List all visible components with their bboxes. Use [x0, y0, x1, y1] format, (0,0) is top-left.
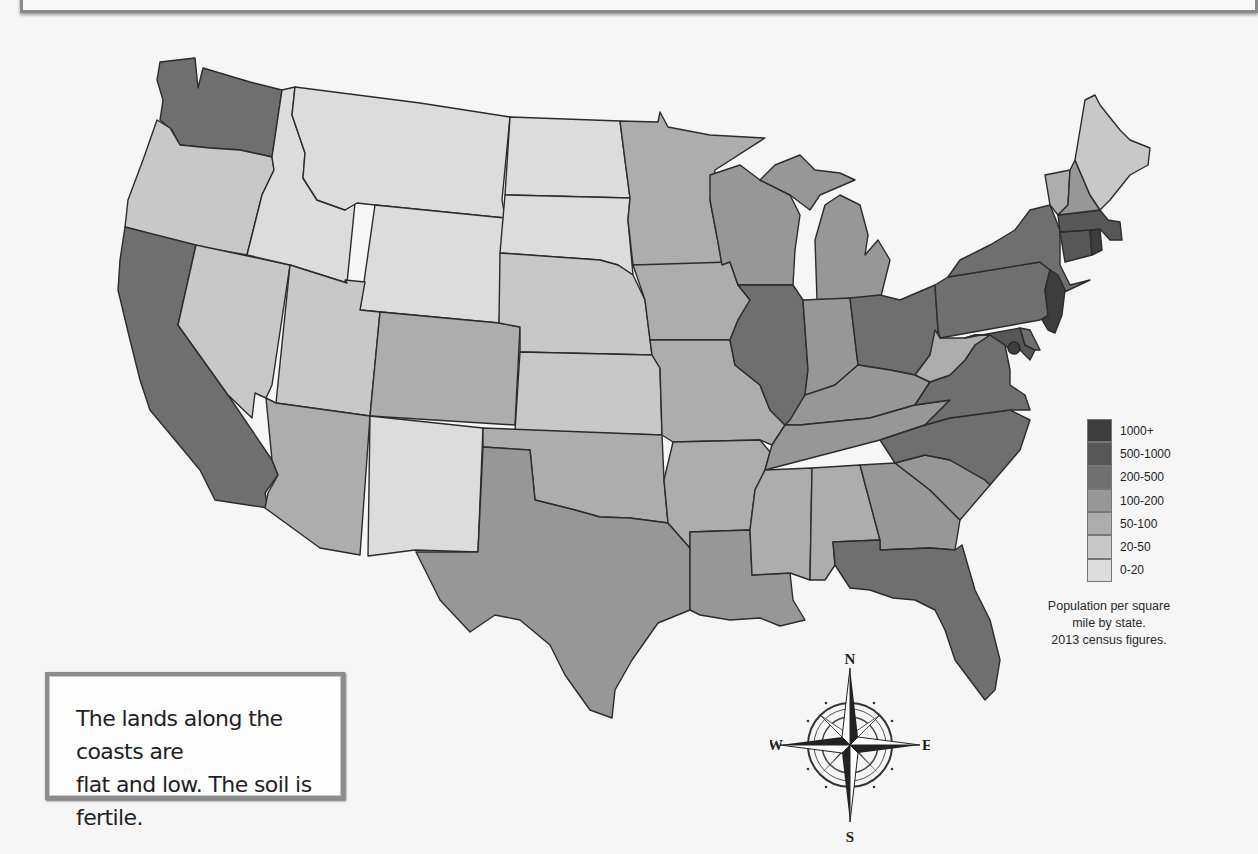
legend-label: 500-1000	[1120, 447, 1171, 461]
state-arizona[interactable]	[265, 398, 370, 555]
legend-swatch	[1087, 442, 1112, 465]
legend-item: 100-200	[1087, 489, 1171, 512]
legend-swatch	[1087, 512, 1112, 535]
legend-item: 50-100	[1087, 512, 1171, 535]
compass-north-label: N	[845, 651, 856, 667]
legend-item: 200-500	[1087, 466, 1171, 489]
compass-west-label: W	[770, 737, 783, 753]
state-new-mexico[interactable]	[368, 416, 483, 556]
state-colorado[interactable]	[370, 312, 520, 425]
legend-swatch	[1087, 535, 1112, 558]
state-mississippi[interactable]	[750, 468, 812, 580]
caption-text: The lands along the coasts are flat and …	[76, 702, 341, 834]
legend-swatch	[1087, 419, 1112, 442]
state-connecticut[interactable]	[1060, 230, 1092, 262]
legend-label: 50-100	[1120, 517, 1157, 531]
compass-south-label: S	[846, 829, 854, 845]
state-dc-marker[interactable]	[1008, 342, 1020, 354]
legend-swatch	[1087, 559, 1112, 582]
caption-line: flat and low. The soil is fertile.	[76, 768, 341, 834]
legend-item: 1000+	[1087, 419, 1171, 442]
legend-item: 20-50	[1087, 535, 1171, 558]
state-kansas[interactable]	[515, 352, 662, 435]
legend-label: 0-20	[1120, 563, 1144, 577]
legend-swatch	[1087, 466, 1112, 489]
legend-label: 200-500	[1120, 470, 1164, 484]
legend-caption-line: 2013 census figures.	[1000, 632, 1218, 649]
legend-item: 0-20	[1087, 559, 1171, 582]
legend-label: 1000+	[1120, 424, 1154, 438]
state-montana[interactable]	[292, 87, 510, 218]
legend-label: 100-200	[1120, 494, 1164, 508]
compass-rose-icon: N S W E	[770, 650, 930, 850]
caption-box: The lands along the coasts are flat and …	[45, 672, 345, 800]
state-utah[interactable]	[276, 265, 380, 416]
legend-caption-line: mile by state.	[1000, 615, 1218, 632]
map-legend: 1000+ 500-1000 200-500 100-200 50-100 20…	[1087, 419, 1171, 582]
legend-caption: Population per square mile by state. 201…	[1000, 598, 1218, 649]
legend-label: 20-50	[1120, 540, 1151, 554]
state-iowa[interactable]	[633, 262, 750, 340]
caption-line: The lands along the coasts are	[76, 702, 341, 768]
state-wyoming[interactable]	[360, 205, 505, 323]
compass-east-label: E	[922, 737, 930, 753]
legend-item: 500-1000	[1087, 442, 1171, 465]
state-rhode-island[interactable]	[1090, 229, 1102, 255]
legend-swatch	[1087, 489, 1112, 512]
legend-caption-line: Population per square	[1000, 598, 1218, 615]
state-north-dakota[interactable]	[505, 117, 630, 198]
